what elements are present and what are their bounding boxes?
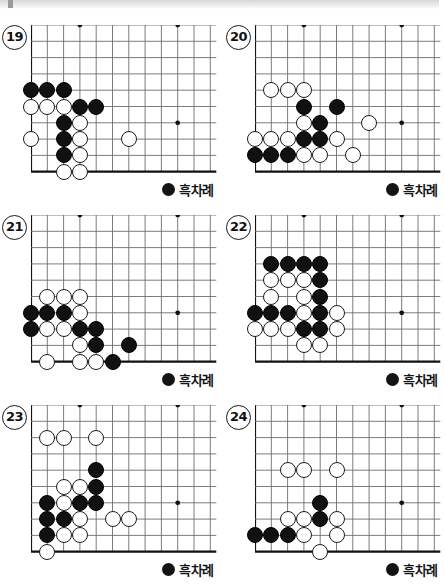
white-stone [56, 495, 72, 511]
black-stone [312, 495, 328, 511]
black-stone [312, 305, 328, 321]
star-point [302, 25, 307, 27]
black-stone [56, 305, 72, 321]
black-stone [56, 131, 72, 147]
white-stone [72, 479, 88, 495]
white-stone [361, 115, 377, 131]
black-stone [329, 99, 345, 115]
turn-label-text: 흑차례 [179, 180, 214, 199]
black-stone [88, 495, 104, 511]
white-stone [56, 479, 72, 495]
white-stone [280, 131, 296, 147]
turn-label-text: 흑차례 [403, 560, 438, 579]
black-stone-icon [162, 563, 175, 576]
white-stone [72, 131, 88, 147]
white-stone [247, 321, 263, 337]
white-stone [56, 99, 72, 115]
white-stone [56, 289, 72, 305]
white-stone [88, 354, 104, 370]
white-stone [280, 462, 296, 478]
black-stone [72, 495, 88, 511]
white-stone [56, 164, 72, 180]
go-board [255, 405, 439, 570]
star-point [302, 215, 307, 217]
star-point [175, 405, 180, 407]
star-point [175, 120, 180, 125]
black-stone [280, 147, 296, 163]
white-stone [329, 321, 345, 337]
white-stone [296, 289, 312, 305]
white-stone [72, 289, 88, 305]
star-point [78, 405, 83, 407]
black-stone [296, 99, 312, 115]
black-stone [56, 82, 72, 98]
star-point [399, 310, 404, 315]
black-stone [23, 305, 39, 321]
black-stone [23, 321, 39, 337]
black-stone [105, 354, 121, 370]
turn-indicator: 흑차례 [162, 180, 214, 198]
white-stone [329, 462, 345, 478]
white-stone [280, 82, 296, 98]
star-point [399, 405, 404, 407]
white-stone [296, 115, 312, 131]
board-grid [255, 215, 445, 376]
black-stone [280, 256, 296, 272]
star-point [399, 215, 404, 217]
go-board [255, 215, 439, 380]
turn-indicator: 흑차례 [386, 560, 438, 578]
black-stone [312, 256, 328, 272]
problem-number-badge: 19 [2, 25, 27, 50]
white-stone [23, 99, 39, 115]
turn-indicator: 흑차례 [162, 370, 214, 388]
black-stone [88, 99, 104, 115]
white-stone [72, 164, 88, 180]
white-stone [72, 305, 88, 321]
black-stone [72, 99, 88, 115]
black-stone [263, 305, 279, 321]
star-point [175, 25, 180, 27]
white-stone [56, 430, 72, 446]
problem-panel: 21흑차례 [0, 198, 215, 388]
black-stone [296, 131, 312, 147]
black-stone [280, 527, 296, 543]
problem-panel: 19흑차례 [0, 8, 215, 198]
black-stone-icon [386, 183, 399, 196]
black-stone [280, 305, 296, 321]
go-board [31, 215, 215, 380]
turn-label-text: 흑차례 [179, 560, 214, 579]
problem-panel: 22흑차례 [224, 198, 439, 388]
black-stone-icon [386, 373, 399, 386]
white-stone [296, 272, 312, 288]
white-stone [296, 462, 312, 478]
white-stone [263, 289, 279, 305]
white-stone [329, 305, 345, 321]
white-stone [280, 321, 296, 337]
black-stone-icon [162, 373, 175, 386]
black-stone-icon [386, 563, 399, 576]
white-stone [39, 99, 55, 115]
turn-label-text: 흑차례 [179, 370, 214, 389]
star-point [175, 500, 180, 505]
white-stone [56, 527, 72, 543]
white-stone [39, 289, 55, 305]
black-stone [56, 511, 72, 527]
problem-number-badge: 20 [226, 25, 251, 50]
white-stone [329, 527, 345, 543]
white-stone [280, 511, 296, 527]
turn-indicator: 흑차례 [386, 370, 438, 388]
problem-number-badge: 23 [2, 405, 27, 430]
white-stone [23, 131, 39, 147]
star-point [78, 25, 83, 27]
turn-indicator: 흑차례 [386, 180, 438, 198]
black-stone [296, 321, 312, 337]
white-stone [247, 131, 263, 147]
white-stone [121, 131, 137, 147]
problem-number-badge: 22 [226, 215, 251, 240]
white-stone [39, 430, 55, 446]
problem-panel: 20흑차례 [224, 8, 439, 198]
white-stone [296, 511, 312, 527]
black-stone [312, 115, 328, 131]
white-stone [296, 82, 312, 98]
